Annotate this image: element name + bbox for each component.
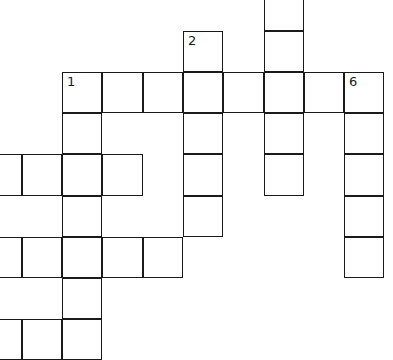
crossword-cell[interactable] xyxy=(0,319,22,360)
crossword-cell[interactable] xyxy=(0,154,22,195)
crossword-cell[interactable] xyxy=(102,72,142,113)
crossword-cell[interactable] xyxy=(183,72,223,113)
crossword-cell[interactable] xyxy=(22,237,62,278)
clue-number: 6 xyxy=(349,75,357,88)
crossword-cell[interactable] xyxy=(143,72,183,113)
crossword-cell[interactable] xyxy=(102,237,142,278)
crossword-cell[interactable] xyxy=(62,196,102,237)
crossword-cell[interactable] xyxy=(344,237,384,278)
crossword-cell[interactable] xyxy=(62,319,102,360)
crossword-cell[interactable] xyxy=(264,72,304,113)
crossword-cell[interactable] xyxy=(264,113,304,154)
crossword-cell-1[interactable]: 1 xyxy=(62,72,102,113)
crossword-cell[interactable] xyxy=(183,154,223,195)
crossword-cell[interactable] xyxy=(102,154,142,195)
clue-number: 2 xyxy=(188,34,196,47)
crossword-cell-6[interactable]: 6 xyxy=(344,72,384,113)
crossword-cell[interactable] xyxy=(223,72,263,113)
crossword-cell[interactable] xyxy=(62,237,102,278)
crossword-cell[interactable] xyxy=(0,237,22,278)
clue-number: 1 xyxy=(67,75,75,88)
crossword-cell[interactable] xyxy=(22,319,62,360)
crossword-cell[interactable] xyxy=(344,196,384,237)
crossword-cell[interactable] xyxy=(264,31,304,72)
crossword-cell[interactable] xyxy=(22,154,62,195)
crossword-cell[interactable] xyxy=(62,278,102,319)
crossword-cell[interactable] xyxy=(264,0,304,31)
crossword-cell[interactable] xyxy=(183,196,223,237)
crossword-cell[interactable] xyxy=(264,154,304,195)
crossword-cell[interactable] xyxy=(143,237,183,278)
crossword-cell[interactable] xyxy=(344,154,384,195)
crossword-cell[interactable] xyxy=(183,113,223,154)
crossword-cell-2[interactable]: 2 xyxy=(183,31,223,72)
crossword-cell[interactable] xyxy=(62,113,102,154)
crossword-cell[interactable] xyxy=(344,113,384,154)
crossword-cell[interactable] xyxy=(304,72,344,113)
crossword-cell[interactable] xyxy=(62,154,102,195)
